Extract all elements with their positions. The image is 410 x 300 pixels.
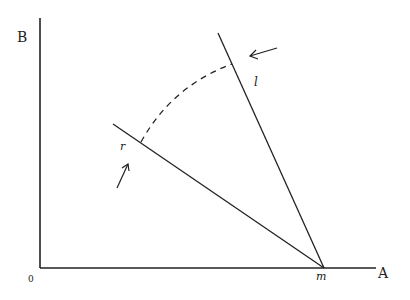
line-l-label: l <box>254 75 258 89</box>
y-axis-label: B <box>17 29 27 45</box>
arrow-toward-r-icon <box>117 164 129 188</box>
arrow-toward-l-icon <box>250 48 277 59</box>
line-l <box>218 33 324 268</box>
diagram-canvas: B A 0 l r m <box>0 0 410 300</box>
line-r <box>113 124 324 268</box>
origin-label: 0 <box>28 274 34 284</box>
x-axis-label: A <box>377 265 389 281</box>
vertex-m-label: m <box>316 270 326 283</box>
dashed-arc <box>141 64 232 142</box>
line-r-label: r <box>120 140 126 153</box>
